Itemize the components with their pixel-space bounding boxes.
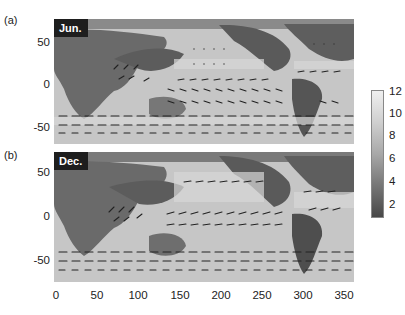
june-map-panel: Jun. <box>54 19 354 144</box>
xtick-0: 0 <box>53 289 59 301</box>
panel-b-label: (b) <box>4 149 17 161</box>
colorbar <box>371 90 384 218</box>
colorbar-tick-10: 10 <box>389 107 402 119</box>
colorbar-tick-6: 6 <box>389 152 395 164</box>
colorbar-tick-8: 8 <box>389 129 395 141</box>
june-title: Jun. <box>54 19 88 37</box>
ytick-b-minus50: -50 <box>22 254 50 266</box>
june-map-graphic <box>54 19 354 144</box>
ytick-b-50: 50 <box>22 166 50 178</box>
colorbar-tick-2: 2 <box>389 198 395 210</box>
ytick-a-0: 0 <box>22 78 50 90</box>
xtick-250: 250 <box>252 289 271 301</box>
ytick-b-0: 0 <box>22 210 50 222</box>
colorbar-tick-12: 12 <box>389 85 402 97</box>
xtick-50: 50 <box>91 289 104 301</box>
xtick-200: 200 <box>211 289 230 301</box>
ytick-a-minus50: -50 <box>22 121 50 133</box>
december-map-panel: Dec. <box>54 152 354 282</box>
december-title: Dec. <box>54 152 88 170</box>
xtick-300: 300 <box>293 289 312 301</box>
ytick-a-50: 50 <box>22 36 50 48</box>
december-map-graphic <box>54 152 354 282</box>
xtick-100: 100 <box>128 289 147 301</box>
colorbar-tick-4: 4 <box>389 175 395 187</box>
xtick-150: 150 <box>170 289 189 301</box>
panel-a-label: (a) <box>4 14 17 26</box>
xtick-350: 350 <box>334 289 353 301</box>
